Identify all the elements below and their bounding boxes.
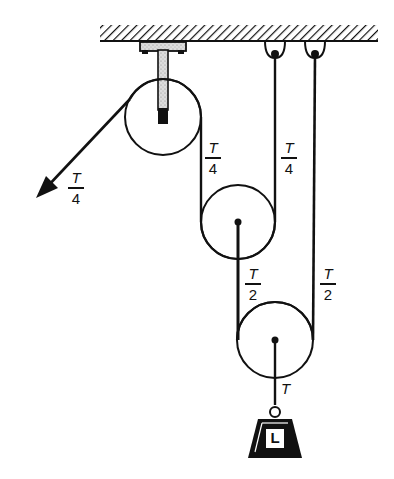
label-pull-tension: T 4	[68, 170, 84, 206]
fraction-bar	[68, 187, 84, 189]
fraction-bar	[205, 157, 221, 159]
label-lower-to-hook-tension: T 2	[320, 266, 336, 302]
label-num: T	[245, 266, 261, 281]
pull-rope-arrow	[36, 79, 163, 198]
pulley-diagram	[0, 0, 394, 479]
label-middle-to-lower-tension: T 2	[245, 266, 261, 302]
label-den: 2	[320, 287, 336, 302]
fraction-bar	[281, 157, 297, 159]
ceiling	[100, 25, 378, 41]
ceiling-hook-1	[265, 41, 285, 58]
label-den: 2	[245, 287, 261, 302]
fraction-bar	[245, 283, 261, 285]
fraction-bar	[320, 283, 336, 285]
label-fixed-to-middle-tension: T 4	[205, 140, 221, 176]
label-middle-to-hook-tension: T 4	[281, 140, 297, 176]
label-num: T	[281, 140, 297, 155]
label-num: T	[205, 140, 221, 155]
ceiling-hook-2	[305, 41, 325, 58]
label-num: T	[68, 170, 84, 185]
label-den: 4	[68, 191, 84, 206]
label-num: T	[320, 266, 336, 281]
rope-lower-to-hook	[313, 56, 315, 340]
load-label: L	[267, 430, 283, 446]
label-load-tension: T	[281, 380, 290, 397]
label-den: 4	[281, 161, 297, 176]
label-den: 4	[205, 161, 221, 176]
